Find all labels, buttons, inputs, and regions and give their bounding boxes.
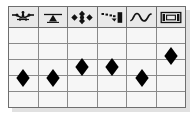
header-cell-2[interactable] bbox=[39, 7, 69, 27]
cell-r5c6[interactable] bbox=[157, 92, 186, 107]
cell-r5c5[interactable] bbox=[127, 92, 157, 107]
cell-r5c2[interactable] bbox=[39, 92, 69, 107]
cell-r5c4[interactable] bbox=[98, 92, 128, 107]
header-cell-6[interactable] bbox=[157, 7, 186, 27]
table-row bbox=[9, 92, 185, 107]
cell-r3c2[interactable] bbox=[39, 60, 69, 75]
cell-r1c1[interactable] bbox=[9, 28, 39, 43]
header-cell-1[interactable] bbox=[9, 7, 39, 27]
cell-r2c6[interactable] bbox=[157, 44, 186, 59]
icon-grid-table bbox=[8, 6, 186, 108]
sine-wave-icon bbox=[129, 10, 153, 25]
cell-r4c2[interactable] bbox=[39, 76, 69, 91]
cell-r3c1[interactable] bbox=[9, 60, 39, 75]
table-row bbox=[9, 60, 185, 76]
cell-r1c6[interactable] bbox=[157, 28, 186, 43]
cell-r3c4[interactable] bbox=[98, 60, 128, 75]
table-row bbox=[9, 44, 185, 60]
cell-r1c3[interactable] bbox=[68, 28, 98, 43]
cell-r4c3[interactable] bbox=[68, 76, 98, 91]
constellation-node-icon bbox=[11, 10, 35, 25]
table-row bbox=[9, 28, 185, 44]
cell-r2c3[interactable] bbox=[68, 44, 98, 59]
cell-r1c5[interactable] bbox=[127, 28, 157, 43]
cell-r2c5[interactable] bbox=[127, 44, 157, 59]
header-cell-4[interactable] bbox=[98, 7, 128, 27]
cell-r5c3[interactable] bbox=[68, 92, 98, 107]
table-header-row bbox=[9, 7, 185, 28]
cell-r2c4[interactable] bbox=[98, 44, 128, 59]
dashed-arrow-to-block-icon bbox=[100, 10, 124, 25]
cell-r2c1[interactable] bbox=[9, 44, 39, 59]
cell-r1c2[interactable] bbox=[39, 28, 69, 43]
cell-r4c5[interactable] bbox=[127, 76, 157, 91]
cell-r3c5[interactable] bbox=[127, 60, 157, 75]
header-cell-5[interactable] bbox=[127, 7, 157, 27]
four-way-arrows-icon bbox=[70, 10, 94, 25]
fit-to-width-brackets-icon bbox=[159, 10, 183, 25]
cell-r5c1[interactable] bbox=[9, 92, 39, 107]
cell-r4c4[interactable] bbox=[98, 76, 128, 91]
cell-r1c4[interactable] bbox=[98, 28, 128, 43]
cell-r4c1[interactable] bbox=[9, 76, 39, 91]
cell-r3c6[interactable] bbox=[157, 60, 186, 75]
header-cell-3[interactable] bbox=[68, 7, 98, 27]
cell-r4c6[interactable] bbox=[157, 76, 186, 91]
cell-r2c2[interactable] bbox=[39, 44, 69, 59]
table-row bbox=[9, 76, 185, 92]
widget-root bbox=[0, 0, 194, 114]
cell-r3c3[interactable] bbox=[68, 60, 98, 75]
triangle-under-bar-icon bbox=[41, 10, 65, 25]
